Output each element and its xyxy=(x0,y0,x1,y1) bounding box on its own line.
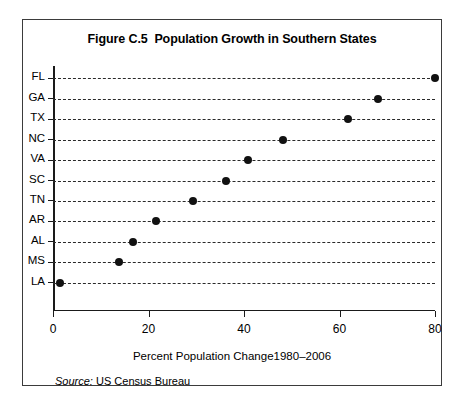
data-point-nc xyxy=(279,136,287,144)
y-axis-label-sc: SC xyxy=(29,173,45,185)
data-point-fl xyxy=(431,74,439,82)
source-label: Source: xyxy=(55,375,93,387)
data-point-ms xyxy=(115,258,123,266)
x-axis-tick-40 xyxy=(244,311,245,317)
x-axis-title: Percent Population Change1980–2006 xyxy=(23,350,441,362)
x-axis-tick-60 xyxy=(340,311,341,317)
gridline-dashed xyxy=(53,78,435,79)
gridline-dashed xyxy=(53,201,435,202)
gridline-dashed xyxy=(53,119,435,120)
x-axis-tick-label-20: 20 xyxy=(142,322,155,336)
data-point-va xyxy=(244,156,252,164)
y-axis-label-va: VA xyxy=(31,152,46,164)
y-axis-label-al: AL xyxy=(31,234,45,246)
gridline-dashed xyxy=(53,283,435,284)
data-point-ga xyxy=(374,95,382,103)
source-text: US Census Bureau xyxy=(96,375,190,387)
x-axis-tick-label-0: 0 xyxy=(50,322,57,336)
x-axis-tick-80 xyxy=(435,311,436,317)
x-axis-tick-20 xyxy=(149,311,150,317)
x-axis-tick-0 xyxy=(53,311,54,317)
gridline-dashed xyxy=(53,262,435,263)
data-point-ar xyxy=(152,217,160,225)
data-point-sc xyxy=(222,177,230,185)
y-axis-label-ga: GA xyxy=(28,91,45,103)
data-point-la xyxy=(56,279,64,287)
x-axis-tick-label-60: 60 xyxy=(333,322,346,336)
source-note: Source: US Census Bureau xyxy=(55,375,190,387)
y-axis-label-la: LA xyxy=(31,275,45,287)
chart-title: Figure C.5 Population Growth in Southern… xyxy=(23,32,441,46)
y-axis-line xyxy=(53,66,55,311)
figure-frame: Figure C.5 Population Growth in Southern… xyxy=(22,19,442,386)
x-axis-tick-label-80: 80 xyxy=(428,322,441,336)
gridline-dashed xyxy=(53,181,435,182)
data-point-tn xyxy=(189,197,197,205)
y-axis-label-fl: FL xyxy=(32,70,45,82)
gridline-dashed xyxy=(53,140,435,141)
y-axis-label-ms: MS xyxy=(28,254,45,266)
y-axis-label-tn: TN xyxy=(30,193,45,205)
data-point-tx xyxy=(344,115,352,123)
y-axis-label-nc: NC xyxy=(28,132,45,144)
gridline-dashed xyxy=(53,221,435,222)
y-axis-label-tx: TX xyxy=(30,111,45,123)
plot-area: FLGATXNCVASCTNARALMSLA 020406080 xyxy=(53,66,435,311)
x-axis-tick-label-40: 40 xyxy=(237,322,250,336)
gridline-dashed xyxy=(53,242,435,243)
y-axis-label-ar: AR xyxy=(29,213,45,225)
data-point-al xyxy=(129,238,137,246)
